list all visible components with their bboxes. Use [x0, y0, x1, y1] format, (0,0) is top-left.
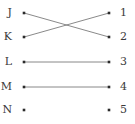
node-dot-m[interactable]: [23, 86, 26, 89]
node-label-m: M: [0, 81, 12, 92]
node-dot-1[interactable]: [108, 12, 111, 15]
node-dot-5[interactable]: [108, 109, 111, 112]
node-label-5: 5: [120, 104, 135, 115]
node-label-2: 2: [120, 31, 135, 42]
node-label-j: J: [0, 7, 12, 18]
node-label-n: N: [0, 104, 12, 115]
node-dot-l[interactable]: [23, 61, 26, 64]
node-dot-n[interactable]: [23, 109, 26, 112]
node-label-1: 1: [120, 7, 135, 18]
node-label-k: K: [0, 31, 12, 42]
bipartite-mapping-diagram: JKLMN12345: [0, 0, 135, 124]
node-label-4: 4: [120, 81, 135, 92]
node-dot-4[interactable]: [108, 86, 111, 89]
node-dot-3[interactable]: [108, 61, 111, 64]
edges-group: [24, 13, 109, 87]
node-dot-j[interactable]: [23, 12, 26, 15]
nodes-group: [23, 12, 111, 112]
diagram-canvas: [0, 0, 135, 124]
node-label-3: 3: [120, 56, 135, 67]
node-dot-k[interactable]: [23, 36, 26, 39]
node-label-l: L: [0, 56, 12, 67]
node-dot-2[interactable]: [108, 36, 111, 39]
